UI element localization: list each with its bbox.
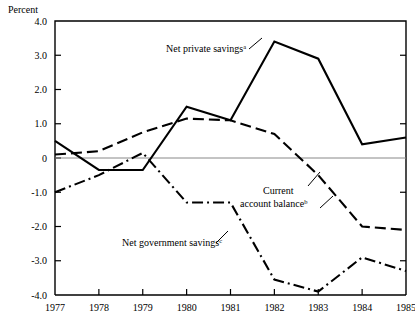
series-line-net-government-savings [55,153,406,292]
y-axis-title-group: Percent [8,4,38,15]
x-tick-label: 1978 [89,302,109,313]
annotation-label: Current [263,185,294,196]
y-tick-label: 4.0 [35,16,48,27]
x-tick-label: 1984 [352,302,372,313]
x-tick-label: 1977 [45,302,65,313]
y-tick-label: -4.0 [31,290,47,301]
leader-current-account-balance [308,172,320,186]
y-tick-label: 2.0 [35,84,48,95]
y-tick-label: 1.0 [35,118,48,129]
x-tick-label: 1979 [133,302,153,313]
leader-net-private-savings [249,38,262,49]
annotation-label: Net government savingsc [122,237,222,249]
line-chart: Percent 4.03.02.01.00-1.0-2.0-3.0-4.0 19… [0,0,415,316]
y-tick-label: -1.0 [31,187,47,198]
series-line-current-account-balance [55,119,406,230]
y-tick-label: -2.0 [31,221,47,232]
y-axis-title: Percent [8,4,38,15]
chart-container: Percent 4.03.02.01.00-1.0-2.0-3.0-4.0 19… [0,0,415,316]
annotation-label: account balanceb [240,198,307,210]
x-tick-label: 1985 [396,302,415,313]
x-tick-label: 1982 [264,302,284,313]
x-tick-label: 1981 [221,302,241,313]
y-tick-label: 3.0 [35,50,48,61]
series-line-net-private-savings [55,42,406,170]
x-tick-label: 1983 [308,302,328,313]
y-tick-label: -3.0 [31,255,47,266]
series-lines [55,42,406,292]
y-tick-label: 0 [42,153,47,164]
annotation-label: Net private savingsa [166,43,246,55]
x-tick-label: 1980 [177,302,197,313]
series-annotations: Net private savingsaCurrentaccount balan… [122,38,333,248]
leader-current-account-balance-2 [320,196,333,208]
x-axis-ticks: 197719781979198019811982198319841985 [45,289,415,313]
